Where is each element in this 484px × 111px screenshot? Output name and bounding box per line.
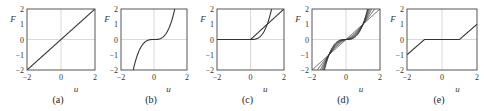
panel-caption: (d): [337, 94, 349, 106]
y-tick-label: 1: [305, 20, 309, 29]
panel-caption: (e): [433, 94, 444, 106]
y-tick-label: 1: [210, 20, 214, 29]
x-tick-label: 0: [440, 73, 444, 82]
panel-b: 210−1−2−202Fu(b): [103, 0, 189, 106]
panel-e: 210−1−2−202Fu(e): [389, 5, 479, 106]
y-axis-label: F: [9, 14, 16, 24]
x-tick-label: 2: [282, 73, 286, 82]
y-tick-label: 0: [210, 36, 214, 45]
x-tick-label: 2: [93, 73, 97, 82]
y-tick-label: 0: [400, 36, 404, 45]
panel-caption: (c): [242, 94, 253, 106]
y-tick-label: −1: [205, 51, 214, 60]
x-axis-label: u: [359, 84, 364, 94]
y-tick-label: 1: [400, 20, 404, 29]
x-axis-label: u: [74, 84, 79, 94]
x-tick-label: 0: [59, 73, 63, 82]
y-axis-label: F: [294, 14, 301, 24]
y-tick-label: −1: [395, 51, 404, 60]
x-tick-label: 0: [152, 73, 156, 82]
x-tick-label: −2: [403, 73, 412, 82]
y-axis-label: F: [389, 14, 396, 24]
x-axis-label: u: [455, 84, 460, 94]
y-tick-label: 2: [114, 5, 118, 14]
x-tick-label: −2: [213, 73, 222, 82]
y-tick-label: −1: [300, 51, 309, 60]
x-tick-label: −2: [308, 73, 317, 82]
y-tick-label: 1: [20, 20, 24, 29]
x-axis-label: u: [263, 84, 268, 94]
y-tick-label: 0: [305, 36, 309, 45]
x-tick-label: 2: [475, 73, 479, 82]
y-tick-label: 0: [20, 36, 24, 45]
panel-caption: (b): [145, 94, 157, 106]
y-tick-label: 1: [114, 20, 118, 29]
y-axis-label: F: [103, 14, 110, 24]
y-tick-label: 2: [400, 5, 404, 14]
x-tick-label: 2: [378, 73, 382, 82]
y-tick-label: 2: [210, 5, 214, 14]
x-tick-label: 0: [344, 73, 348, 82]
y-tick-label: −1: [15, 51, 24, 60]
panel-a: 210−1−2−202Fu(a): [9, 5, 97, 106]
y-tick-label: 2: [20, 5, 24, 14]
x-axis-label: u: [166, 84, 171, 94]
panel-d: 210−1−2−202Fu(d): [294, 0, 382, 106]
y-tick-label: 2: [305, 5, 309, 14]
panel-c: 210−1−2−202Fu(c): [199, 0, 286, 106]
y-tick-label: −1: [109, 51, 118, 60]
panel-caption: (a): [52, 94, 63, 106]
x-tick-label: −2: [117, 73, 126, 82]
y-tick-label: 0: [114, 36, 118, 45]
y-axis-label: F: [199, 14, 206, 24]
figure: 210−1−2−202Fu(a)210−1−2−202Fu(b)210−1−2−…: [0, 0, 484, 111]
x-tick-label: −2: [23, 73, 32, 82]
x-tick-label: 0: [249, 73, 253, 82]
x-tick-label: 2: [185, 73, 189, 82]
